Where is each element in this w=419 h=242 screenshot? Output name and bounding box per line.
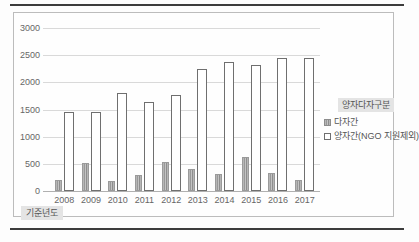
legend-item-label: 다자간 bbox=[334, 117, 358, 127]
bar-series1-2014 bbox=[224, 62, 234, 191]
x-tick-label-2017: 2017 bbox=[288, 195, 322, 205]
bar-series0-2010 bbox=[108, 181, 115, 191]
bar-series0-2009 bbox=[82, 163, 89, 191]
gridline-3000 bbox=[43, 28, 320, 29]
bar-series0-2008 bbox=[55, 180, 62, 191]
gridline-0 bbox=[43, 191, 320, 192]
x-axis-title: 기준년도 bbox=[21, 206, 63, 220]
bar-series0-2012 bbox=[162, 162, 169, 191]
bar-series0-2015 bbox=[242, 157, 249, 191]
bar-series0-2017 bbox=[295, 180, 302, 191]
bar-series1-2009 bbox=[91, 112, 101, 191]
bar-series1-2013 bbox=[197, 69, 207, 191]
bar-series1-2010 bbox=[117, 93, 127, 191]
document-page: 양자다자구분 다자간양자간(NGO 지원제외) 기준년도 05001000150… bbox=[0, 0, 419, 242]
bar-chart: 양자다자구분 다자간양자간(NGO 지원제외) 기준년도 05001000150… bbox=[13, 12, 394, 217]
y-tick-label: 500 bbox=[16, 159, 40, 169]
y-tick-label: 1500 bbox=[16, 105, 40, 115]
bar-series1-2017 bbox=[304, 58, 314, 191]
y-tick-label: 1000 bbox=[16, 132, 40, 142]
y-tick-label: 2500 bbox=[16, 50, 40, 60]
top-divider bbox=[10, 4, 404, 6]
y-tick-label: 3000 bbox=[16, 23, 40, 33]
bar-series1-2015 bbox=[251, 65, 261, 191]
bar-series1-2016 bbox=[277, 58, 287, 191]
bar-series1-2011 bbox=[144, 102, 154, 191]
bar-series0-2013 bbox=[188, 169, 195, 191]
legend-item-label: 양자간(NGO 지원제외) bbox=[334, 131, 419, 141]
gridline-2500 bbox=[43, 55, 320, 56]
legend-title: 양자다자구분 bbox=[338, 98, 394, 112]
bar-series0-2011 bbox=[135, 175, 142, 191]
y-tick-label: 0 bbox=[16, 186, 40, 196]
bar-series1-2008 bbox=[64, 112, 74, 191]
y-tick-label: 2000 bbox=[16, 77, 40, 87]
legend-item-1: 양자간(NGO 지원제외) bbox=[324, 131, 419, 141]
filled-square-icon bbox=[324, 119, 331, 126]
bottom-divider bbox=[10, 228, 404, 230]
open-square-icon bbox=[324, 133, 331, 140]
bar-series0-2014 bbox=[215, 174, 222, 191]
plot-area bbox=[43, 28, 320, 191]
bar-series0-2016 bbox=[268, 173, 275, 191]
bar-series1-2012 bbox=[171, 95, 181, 191]
legend-item-0: 다자간 bbox=[324, 117, 358, 127]
